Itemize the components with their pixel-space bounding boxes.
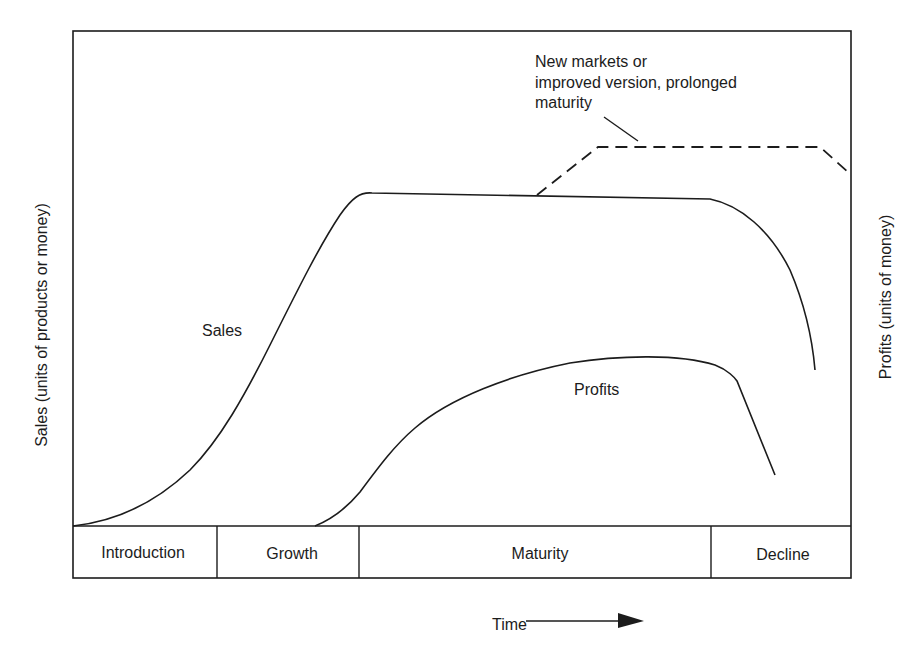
y-axis-right-label: Profits (units of money) — [877, 215, 894, 380]
product-life-cycle-diagram: Introduction Growth Maturity Decline Sal… — [0, 0, 919, 660]
prolonged-maturity-curve — [537, 147, 848, 195]
profits-curve — [315, 357, 775, 526]
chart-frame — [73, 31, 851, 578]
profits-curve-label: Profits — [574, 381, 619, 398]
annotation-line-1: New markets or — [535, 53, 648, 70]
y-axis-left-label: Sales (units of products or money) — [33, 203, 50, 447]
x-axis-label: Time — [492, 616, 527, 633]
annotation-line-3: maturity — [535, 94, 592, 111]
sales-curve-label: Sales — [202, 322, 242, 339]
annotation-line-2: improved version, prolonged — [535, 74, 737, 91]
stage-introduction: Introduction — [101, 544, 185, 561]
stage-maturity: Maturity — [512, 545, 569, 562]
stage-growth: Growth — [266, 545, 318, 562]
stage-decline: Decline — [756, 546, 809, 563]
sales-curve — [73, 193, 815, 526]
right-arrow-icon — [526, 613, 644, 628]
annotation-leader-line — [604, 117, 638, 141]
